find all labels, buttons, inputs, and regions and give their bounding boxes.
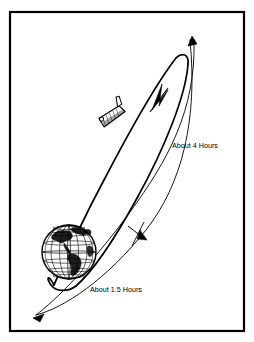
outer-orbit-label: About 4 Hours — [172, 141, 218, 150]
earth-globe — [42, 225, 96, 279]
inner-orbit-label: About 1.5 Hours — [90, 285, 142, 294]
orbital-diagram: About 4 Hours About 1.5 Hours — [0, 0, 254, 342]
figure-page: About 4 Hours About 1.5 Hours — [0, 0, 254, 342]
